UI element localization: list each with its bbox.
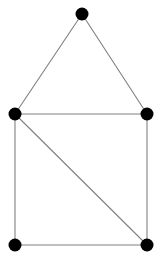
graph-edge-diagonal xyxy=(15,114,147,245)
graph-figure xyxy=(0,0,164,262)
graph-node-right-mid xyxy=(141,108,154,121)
graph-canvas xyxy=(0,0,164,262)
graph-node-bottom-right xyxy=(141,239,154,252)
edge-layer xyxy=(15,14,147,245)
graph-edge-apex-right xyxy=(82,14,147,114)
graph-edge-apex-left xyxy=(15,14,82,114)
graph-node-left-mid xyxy=(9,108,22,121)
graph-node-bottom-left xyxy=(9,239,22,252)
graph-node-apex xyxy=(76,8,89,21)
